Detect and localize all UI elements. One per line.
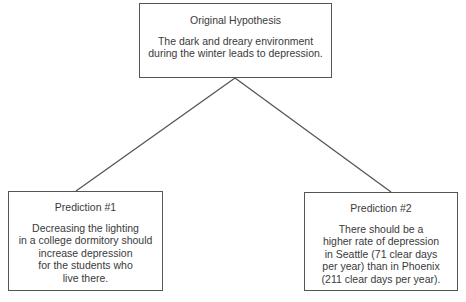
hypothesis-title: Original Hypothesis xyxy=(140,14,331,27)
original-hypothesis-box: Original Hypothesis The dark and dreary … xyxy=(139,3,332,78)
prediction-2-box: Prediction #2 There should be a higher r… xyxy=(304,192,458,291)
prediction-2-text: There should be a higher rate of depress… xyxy=(305,223,457,286)
hypothesis-text: The dark and dreary environment during t… xyxy=(140,35,331,60)
prediction-1-text: Decreasing the lighting in a college dor… xyxy=(9,222,162,285)
link-to-prediction-1 xyxy=(76,78,235,191)
prediction-1-title: Prediction #1 xyxy=(9,201,162,214)
prediction-1-box: Prediction #1 Decreasing the lighting in… xyxy=(8,191,163,291)
prediction-2-title: Prediction #2 xyxy=(305,202,457,215)
link-to-prediction-2 xyxy=(235,78,391,192)
